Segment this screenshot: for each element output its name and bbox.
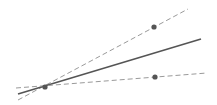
lower-point <box>152 74 157 79</box>
diagram-canvas <box>0 0 217 105</box>
upper-point <box>151 24 156 29</box>
vertex-point <box>42 84 47 89</box>
